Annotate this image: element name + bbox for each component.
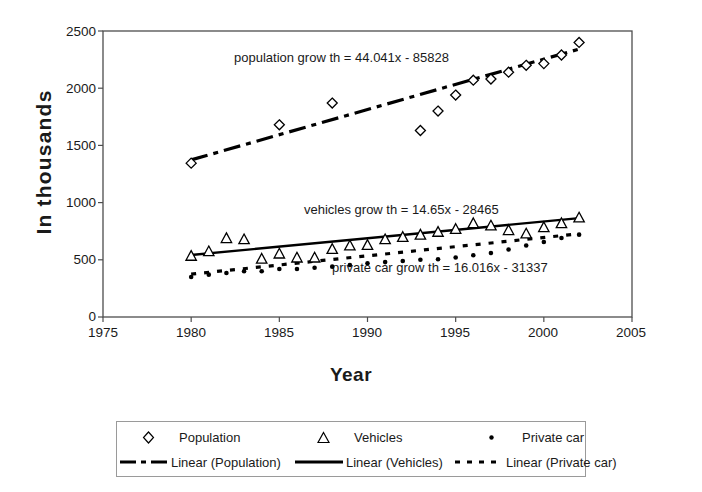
data-point-triangle bbox=[257, 253, 267, 263]
data-point-triangle bbox=[539, 222, 549, 232]
data-point-dot bbox=[400, 259, 405, 264]
data-point-triangle bbox=[468, 218, 478, 228]
data-point-diamond bbox=[327, 98, 337, 108]
data-point-triangle bbox=[221, 233, 231, 243]
legend-item-linear-vehicles[interactable]: Linear (Vehicles) bbox=[292, 455, 452, 470]
data-point-triangle bbox=[345, 240, 355, 250]
chart-figure: In thousands Year 2500 2000 1500 1000 50… bbox=[0, 0, 702, 492]
data-point-triangle bbox=[398, 232, 408, 242]
data-point-diamond bbox=[574, 37, 584, 47]
data-point-triangle bbox=[204, 246, 214, 256]
legend-label-linear-private-car: Linear (Private car) bbox=[506, 455, 617, 470]
data-point-triangle bbox=[239, 234, 249, 244]
data-point-dot bbox=[559, 236, 564, 241]
data-point-dot bbox=[542, 240, 547, 245]
data-point-dot bbox=[207, 272, 212, 277]
data-point-dot bbox=[383, 260, 388, 265]
data-point-triangle bbox=[521, 228, 531, 238]
data-point-triangle bbox=[274, 248, 284, 258]
chart-legend: Population Vehicles Private car Linea bbox=[116, 421, 586, 477]
data-point-diamond bbox=[451, 90, 461, 100]
data-point-dot bbox=[524, 243, 529, 248]
legend-item-linear-private-car[interactable]: Linear (Private car) bbox=[452, 455, 587, 470]
data-point-dot bbox=[471, 253, 476, 258]
data-point-triangle bbox=[574, 212, 584, 222]
legend-item-linear-population[interactable]: Linear (Population) bbox=[117, 455, 292, 470]
data-point-dot bbox=[259, 269, 264, 274]
data-point-dot bbox=[330, 264, 335, 269]
data-point-triangle bbox=[309, 252, 319, 262]
data-point-dot bbox=[224, 271, 229, 276]
data-point-dot bbox=[295, 267, 300, 272]
data-point-dot bbox=[489, 251, 494, 256]
data-point-dot bbox=[312, 266, 317, 271]
legend-label-population: Population bbox=[179, 430, 240, 445]
dot-marker-icon bbox=[460, 431, 522, 444]
legend-item-vehicles[interactable]: Vehicles bbox=[292, 430, 460, 445]
legend-label-vehicles: Vehicles bbox=[354, 430, 402, 445]
triangle-marker-icon bbox=[292, 431, 354, 444]
diamond-marker-icon bbox=[117, 431, 179, 444]
legend-label-private-car: Private car bbox=[522, 430, 584, 445]
data-point-dot bbox=[365, 261, 370, 266]
data-point-dot bbox=[348, 263, 353, 268]
data-point-diamond bbox=[433, 106, 443, 116]
data-point-dot bbox=[436, 257, 441, 262]
data-point-diamond bbox=[415, 126, 425, 136]
data-point-diamond bbox=[274, 120, 284, 130]
legend-label-linear-population: Linear (Population) bbox=[171, 455, 281, 470]
data-point-dot bbox=[418, 258, 423, 263]
data-point-triangle bbox=[362, 240, 372, 250]
legend-row-markers: Population Vehicles Private car bbox=[117, 424, 587, 450]
plot-frame bbox=[103, 31, 632, 317]
plot-canvas bbox=[0, 0, 702, 492]
legend-item-population[interactable]: Population bbox=[117, 430, 292, 445]
data-point-dot bbox=[506, 247, 511, 252]
data-point-dot bbox=[242, 269, 247, 274]
legend-label-linear-vehicles: Linear (Vehicles) bbox=[346, 455, 443, 470]
dash-dot-line-icon bbox=[117, 457, 171, 467]
dotted-line-icon bbox=[452, 457, 506, 467]
data-point-dot bbox=[277, 267, 282, 272]
legend-row-trendlines: Linear (Population) Linear (Vehicles) Li… bbox=[117, 449, 587, 475]
data-point-triangle bbox=[292, 252, 302, 262]
data-point-triangle bbox=[327, 244, 337, 254]
solid-line-icon bbox=[292, 457, 346, 467]
data-point-dot bbox=[189, 275, 194, 280]
data-point-dot bbox=[453, 255, 458, 260]
data-point-dot bbox=[577, 232, 582, 237]
legend-item-private-car[interactable]: Private car bbox=[460, 430, 587, 445]
